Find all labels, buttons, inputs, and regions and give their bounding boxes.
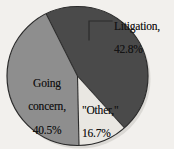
slice-label-litigation-name: Litigation,	[114, 21, 160, 33]
slice-label-other: "Other," 16.7%	[82, 93, 128, 149]
slice-label-going-concern-name-2: concern,	[16, 101, 78, 113]
slice-label-going-concern: Going concern, 40.5%	[16, 66, 78, 148]
slice-label-other-value: 16.7%	[82, 128, 128, 140]
slice-label-going-concern-name-1: Going	[16, 78, 78, 90]
slice-label-other-name: "Other,"	[82, 105, 128, 117]
slice-label-litigation: Litigation, 42.8%	[114, 9, 160, 68]
slice-label-litigation-value: 42.8%	[114, 44, 160, 56]
pie-chart-figure: Litigation, 42.8% Going concern, 40.5% "…	[0, 0, 174, 149]
slice-label-going-concern-value: 40.5%	[16, 125, 78, 137]
